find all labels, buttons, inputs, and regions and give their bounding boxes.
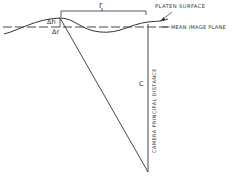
c-label: C <box>139 80 144 88</box>
ray-line <box>60 18 148 172</box>
platen-surface-curve <box>4 18 168 34</box>
mean-image-plane-label: MEAN IMAGE PLANE <box>171 24 226 30</box>
platen-surface-label: PLATEN SURFACE <box>155 3 205 9</box>
platen-distortion-diagram: r PLATEN SURFACE MEAN IMAGE PLANE Δh Δr … <box>0 0 241 178</box>
delta-r-label: Δr <box>52 28 59 36</box>
delta-h-label: Δh <box>47 18 56 26</box>
r-dimension-bracket <box>61 11 146 17</box>
camera-principal-distance-label: CAMERA PRINCIPAL DISTANCE <box>151 68 157 153</box>
